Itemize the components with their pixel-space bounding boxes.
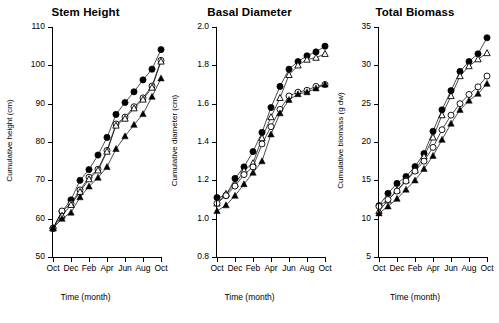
x-axis-tick <box>235 258 236 262</box>
plot-area: 5060708090100110OctDecFebAprJunAugOct <box>53 27 161 257</box>
data-point-open-triangle <box>475 56 481 62</box>
y-axis-tick-label: 1.4 <box>171 137 209 146</box>
data-point-filled-triangle <box>104 164 110 170</box>
data-point-filled-circle <box>77 177 83 183</box>
data-point-filled-triangle <box>484 80 490 86</box>
x-axis-tick <box>325 258 326 262</box>
y-axis-tick <box>48 27 53 28</box>
data-point-filled-triangle <box>149 93 155 99</box>
x-axis-tick <box>107 258 108 262</box>
y-axis-tick <box>374 180 379 181</box>
y-axis-tick <box>48 65 53 66</box>
y-axis-tick-label: 1.2 <box>171 175 209 184</box>
y-axis-tick <box>48 104 53 105</box>
data-point-filled-circle <box>322 43 328 49</box>
x-axis-tick <box>89 258 90 262</box>
y-axis-tick <box>212 27 217 28</box>
x-axis-tick <box>415 258 416 262</box>
x-axis-title: Time (month) <box>331 292 499 302</box>
y-axis-tick-label: 30 <box>333 60 371 69</box>
y-axis-tick-label: 15 <box>333 175 371 184</box>
plot-area: 5101520253035OctDecFebAprJunAugOct <box>379 27 487 257</box>
x-axis-tick <box>469 258 470 262</box>
y-axis-tick <box>212 104 217 105</box>
series-line-filled-triangle <box>217 85 325 212</box>
x-axis-tick <box>433 258 434 262</box>
data-point-filled-triangle <box>140 111 146 117</box>
data-point-open-circle <box>214 200 220 206</box>
x-axis-tick <box>451 258 452 262</box>
panel-title: Total Biomass <box>331 6 499 18</box>
panel-title: Basal Diameter <box>166 6 333 18</box>
data-point-filled-triangle <box>68 209 74 215</box>
data-point-filled-triangle <box>259 158 265 164</box>
y-axis-tick-label: 10 <box>333 214 371 223</box>
data-point-open-circle <box>403 178 409 184</box>
y-axis-tick-label: 0.8 <box>171 252 209 261</box>
data-point-filled-triangle <box>385 203 391 209</box>
y-axis-tick <box>374 27 379 28</box>
data-point-filled-triangle <box>113 146 119 152</box>
panel-basal-diameter: Basal Diameter Cumulative diameter (cm) … <box>166 0 333 323</box>
data-point-filled-triangle <box>439 136 445 142</box>
data-point-filled-circle <box>158 47 164 53</box>
data-point-open-triangle <box>484 50 490 56</box>
data-point-filled-circle <box>149 66 155 72</box>
panel-title: Stem Height <box>0 6 171 18</box>
y-axis-tick <box>48 142 53 143</box>
y-axis-tick <box>212 142 217 143</box>
data-point-open-circle <box>412 168 418 174</box>
data-point-filled-circle <box>268 104 274 110</box>
x-axis-tick <box>71 258 72 262</box>
data-point-filled-circle <box>484 35 490 41</box>
data-point-filled-circle <box>86 167 92 173</box>
data-point-open-triangle <box>313 54 319 60</box>
x-axis-tick <box>397 258 398 262</box>
data-point-open-circle <box>484 73 490 79</box>
data-point-filled-triangle <box>421 165 427 171</box>
y-axis-tick <box>212 65 217 66</box>
plot-area: 0.81.01.21.41.61.82.0OctDecFebAprJunAugO… <box>217 27 325 257</box>
y-axis-tick-label: 50 <box>7 252 45 261</box>
data-point-open-circle <box>466 91 472 97</box>
y-axis-tick-label: 2.0 <box>171 22 209 31</box>
y-axis-tick <box>374 104 379 105</box>
data-point-open-circle <box>475 84 481 90</box>
x-axis-tick <box>271 258 272 262</box>
data-point-open-circle <box>394 188 400 194</box>
y-axis-tick <box>374 219 379 220</box>
y-axis-tick-label: 70 <box>7 175 45 184</box>
y-axis-tick <box>212 219 217 220</box>
data-point-filled-circle <box>277 83 283 89</box>
x-axis-tick <box>125 258 126 262</box>
data-point-open-circle <box>232 183 238 189</box>
data-point-open-circle <box>241 172 247 178</box>
x-axis-tick <box>53 258 54 262</box>
series-layer <box>53 27 161 257</box>
panel-total-biomass: Total Biomass Cumulative biomass (g dw) … <box>331 0 499 323</box>
x-axis-tick-label: Oct <box>472 264 499 273</box>
y-axis-tick-label: 1.8 <box>171 60 209 69</box>
y-axis-tick <box>48 219 53 220</box>
data-point-open-triangle <box>322 50 328 56</box>
data-point-filled-triangle <box>268 131 274 137</box>
y-axis-tick-label: 5 <box>333 252 371 261</box>
data-point-filled-circle <box>122 99 128 105</box>
y-axis-tick-label: 90 <box>7 99 45 108</box>
x-axis-tick <box>307 258 308 262</box>
data-point-open-circle <box>421 158 427 164</box>
x-axis-tick <box>379 258 380 262</box>
data-point-filled-triangle <box>214 208 220 214</box>
series-line-filled-circle <box>217 46 325 197</box>
x-axis-tick <box>253 258 254 262</box>
x-axis-title: Time (month) <box>166 292 333 302</box>
data-point-filled-circle <box>394 180 400 186</box>
data-point-open-circle <box>448 112 454 118</box>
data-point-open-circle <box>223 193 229 199</box>
x-axis-tick <box>217 258 218 262</box>
y-axis-tick-label: 1.0 <box>171 214 209 223</box>
data-point-open-circle <box>376 203 382 209</box>
data-point-filled-triangle <box>448 120 454 126</box>
y-axis-tick <box>374 142 379 143</box>
data-point-filled-circle <box>250 148 256 154</box>
